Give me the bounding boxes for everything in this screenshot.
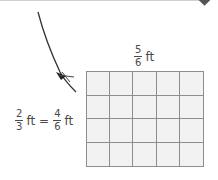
height-right-unit: ft <box>65 114 74 128</box>
height-left-unit: ft <box>26 114 35 128</box>
grid-cell <box>87 72 110 96</box>
height-fraction-left: 2 3 <box>15 109 23 132</box>
grid-cell <box>157 72 180 96</box>
height-right-denominator: 6 <box>53 122 61 132</box>
grid-cell <box>87 96 110 120</box>
grid-cell <box>133 96 156 120</box>
grid-cell <box>180 119 203 143</box>
grid-cell <box>110 119 133 143</box>
height-left-numerator: 2 <box>15 109 23 119</box>
grid-cell <box>110 72 133 96</box>
grid-cell <box>87 119 110 143</box>
grid-cell <box>133 143 156 167</box>
grid-cell <box>180 143 203 167</box>
grid-cell <box>157 143 180 167</box>
grid-cell <box>180 72 203 96</box>
width-denominator: 6 <box>134 58 142 68</box>
grid-cell <box>87 143 110 167</box>
width-label: 5 6 ft <box>134 45 154 68</box>
grid-cell <box>157 119 180 143</box>
width-unit: ft <box>145 50 154 64</box>
height-label: 2 3 ft= 4 6 ft <box>15 109 73 132</box>
grid-cell <box>110 96 133 120</box>
grid-cell <box>133 72 156 96</box>
width-fraction: 5 6 <box>134 45 142 68</box>
grid-cell <box>157 96 180 120</box>
height-left-denominator: 3 <box>15 122 23 132</box>
equals-sign: = <box>39 114 49 128</box>
grid-cell <box>180 96 203 120</box>
grid-cell <box>133 119 156 143</box>
grid-cell <box>110 143 133 167</box>
area-grid <box>86 71 204 167</box>
height-right-numerator: 4 <box>53 109 61 119</box>
height-fraction-right: 4 6 <box>53 109 61 132</box>
width-numerator: 5 <box>134 45 142 55</box>
